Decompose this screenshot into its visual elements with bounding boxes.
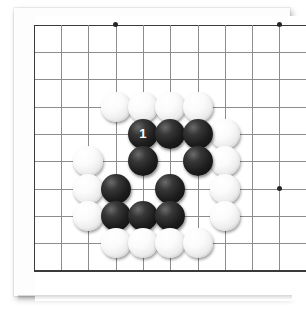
black-stone-body — [128, 146, 158, 176]
white-stone-body — [183, 92, 213, 122]
black-stone[interactable] — [183, 119, 213, 149]
white-stone[interactable] — [101, 92, 131, 122]
white-stone[interactable] — [210, 174, 240, 204]
white-stone-body — [210, 174, 240, 204]
move-stone-1[interactable]: 1 — [128, 119, 158, 149]
white-stone[interactable] — [210, 119, 240, 149]
black-stone[interactable] — [155, 174, 185, 204]
black-stone-body — [128, 201, 158, 231]
black-stone[interactable] — [101, 201, 131, 231]
white-stone[interactable] — [128, 92, 158, 122]
white-stone[interactable] — [73, 174, 103, 204]
black-stone-body — [155, 201, 185, 231]
white-stone[interactable] — [128, 228, 158, 258]
white-stone-body — [73, 174, 103, 204]
black-stone-body — [155, 119, 185, 149]
white-stone[interactable] — [101, 228, 131, 258]
white-stone-body — [128, 228, 158, 258]
white-stone-body — [101, 228, 131, 258]
black-stone[interactable] — [101, 174, 131, 204]
white-stone[interactable] — [210, 146, 240, 176]
white-stone-body — [210, 146, 240, 176]
black-stone-body — [155, 174, 185, 204]
black-stone[interactable] — [155, 201, 185, 231]
go-diagram-screen: 1 — [0, 0, 306, 309]
black-stone[interactable] — [183, 146, 213, 176]
white-stone-body — [210, 201, 240, 231]
black-stone-body — [101, 201, 131, 231]
black-stone-body — [183, 146, 213, 176]
white-stone-body — [128, 92, 158, 122]
black-stone-body — [101, 174, 131, 204]
white-stone[interactable] — [183, 228, 213, 258]
white-stone-body — [155, 92, 185, 122]
white-stone[interactable] — [210, 201, 240, 231]
white-stone-body — [210, 119, 240, 149]
white-stone-body — [73, 201, 103, 231]
black-stone[interactable] — [128, 201, 158, 231]
white-stone[interactable] — [155, 92, 185, 122]
white-stone-body — [101, 92, 131, 122]
white-stone[interactable] — [183, 92, 213, 122]
white-stone-body — [183, 228, 213, 258]
board-panel-shadow — [18, 295, 292, 300]
black-stone-body — [183, 119, 213, 149]
white-stone[interactable] — [73, 201, 103, 231]
move-number-label: 1 — [128, 119, 158, 149]
black-stone[interactable] — [155, 119, 185, 149]
black-stone[interactable] — [128, 146, 158, 176]
